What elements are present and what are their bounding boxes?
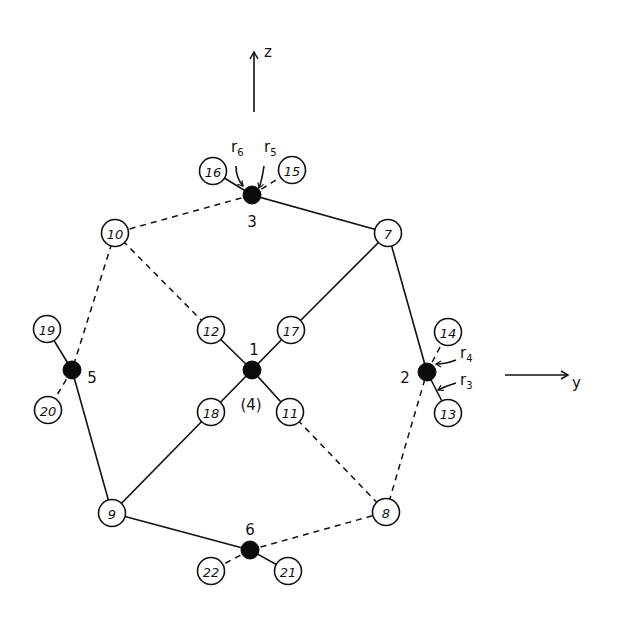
force-label-r5: r5 — [264, 138, 277, 158]
node-7: 7 — [375, 220, 402, 247]
node-17: 17 — [278, 317, 305, 344]
edge-7-17 — [291, 233, 388, 330]
node-label: 22 — [203, 565, 220, 580]
node-8: 8 — [373, 499, 400, 526]
force-subscript: 5 — [270, 147, 276, 158]
node-label: 15 — [284, 164, 301, 179]
edge-18-9 — [112, 412, 211, 513]
joint-label: 1 — [249, 341, 259, 359]
edge-10-5 — [72, 233, 115, 370]
z-axis-label: z — [264, 43, 272, 61]
joint-label: (4) — [240, 396, 261, 414]
edge-9-6 — [112, 513, 250, 550]
force-subscript: 4 — [466, 353, 472, 364]
node-19: 19 — [34, 316, 61, 343]
force-subscript: 6 — [237, 147, 243, 158]
node-21: 21 — [275, 558, 302, 585]
node-22: 22 — [198, 558, 225, 585]
node-label: 17 — [283, 324, 300, 339]
edge-3-7 — [252, 195, 388, 233]
node-20: 20 — [35, 397, 62, 424]
y-axis-label: y — [572, 374, 581, 392]
edge-6-8 — [250, 512, 386, 550]
node-label: 12 — [203, 324, 220, 339]
node-label: 13 — [440, 407, 457, 422]
node-6 — [241, 541, 259, 559]
structure-diagram: zy 78910111213141516171819202122 12356(4… — [0, 0, 617, 618]
node-label: 16 — [205, 165, 222, 180]
node-14: 14 — [435, 319, 462, 346]
node-11: 11 — [277, 399, 304, 426]
filled-node-icon — [241, 541, 259, 559]
force-arrow-r3 — [438, 383, 456, 390]
node-16: 16 — [200, 158, 227, 185]
force-arrow-r6 — [236, 166, 243, 186]
node-label: 14 — [440, 326, 457, 341]
edge-11-8 — [290, 412, 386, 512]
node-18: 18 — [198, 399, 225, 426]
filled-node-icon — [243, 186, 261, 204]
filled-node-icon — [418, 363, 436, 381]
edge-10-12 — [115, 233, 211, 330]
force-label-r3: r3 — [460, 371, 473, 391]
joint-label: 6 — [245, 521, 255, 539]
node-15: 15 — [279, 157, 306, 184]
node-10: 10 — [102, 220, 129, 247]
node-label: 19 — [39, 323, 56, 338]
force-arrow-r4 — [436, 360, 456, 364]
joint-label: 5 — [87, 369, 97, 387]
filled-node-icon — [63, 361, 81, 379]
edge-3-10 — [115, 195, 252, 233]
filled-node-icon — [243, 361, 261, 379]
edge-7-2 — [388, 233, 427, 372]
node-9: 9 — [99, 500, 126, 527]
edge-5-9 — [72, 370, 112, 513]
force-arrow-r5 — [259, 166, 264, 188]
force-label-r4: r4 — [460, 344, 473, 364]
node-5 — [63, 361, 81, 379]
node-label: 18 — [203, 406, 220, 421]
force-subscript: 3 — [466, 380, 472, 391]
joint-label: 3 — [247, 213, 257, 231]
node-label: 11 — [282, 406, 299, 421]
node-2 — [418, 363, 436, 381]
node-3 — [243, 186, 261, 204]
node-12: 12 — [198, 317, 225, 344]
node-label: 7 — [384, 227, 393, 242]
node-label: 8 — [382, 506, 390, 521]
node-13: 13 — [435, 400, 462, 427]
node-label: 10 — [107, 227, 124, 242]
node-label: 20 — [40, 404, 57, 419]
node-1 — [243, 361, 261, 379]
force-label-r6: r6 — [231, 138, 244, 158]
joint-label: 2 — [400, 369, 410, 387]
node-label: 9 — [108, 507, 116, 522]
edge-8-2 — [386, 372, 427, 512]
node-label: 21 — [280, 565, 297, 580]
